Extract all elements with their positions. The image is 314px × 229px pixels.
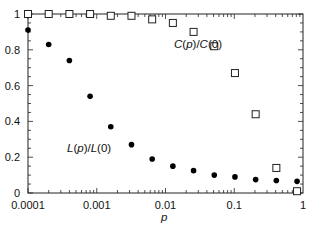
data-point-dot <box>25 27 31 33</box>
x-tick-label: 0.001 <box>83 199 111 211</box>
series-c-ratio-squares <box>25 11 301 195</box>
x-tick-label: 0.1 <box>227 199 242 211</box>
y-tick-label: 1 <box>14 8 20 20</box>
data-point-square <box>169 19 176 26</box>
data-point-square <box>128 12 135 19</box>
x-tick-label: 0.01 <box>155 199 176 211</box>
data-point-square <box>273 164 280 171</box>
y-tick-label: 0 <box>14 187 20 199</box>
y-tick-label: 0.6 <box>5 80 20 92</box>
data-point-square <box>190 28 197 35</box>
plot-frame <box>28 14 303 193</box>
data-point-square <box>252 111 259 118</box>
data-point-dot <box>129 142 135 148</box>
data-point-dot <box>232 174 238 180</box>
data-point-dot <box>149 156 155 162</box>
data-point-square <box>294 188 301 195</box>
data-point-dot <box>170 163 176 169</box>
plot-border <box>28 14 303 193</box>
axis-ticks <box>28 14 303 193</box>
y-tick-label: 0.2 <box>5 151 20 163</box>
data-point-square <box>107 12 114 19</box>
annotation-c-ratio: C(p)/C(0) <box>174 38 222 50</box>
data-point-dot <box>211 172 217 178</box>
y-tick-label: 0.8 <box>5 44 20 56</box>
annotation-l-ratio: L(p)/L(0) <box>67 142 111 154</box>
x-tick-label: 1 <box>300 199 306 211</box>
data-point-dot <box>87 94 93 100</box>
data-point-dot <box>294 179 300 185</box>
chart: 0.00010.0010.010.1100.20.40.60.81 C(p)/C… <box>0 0 314 229</box>
data-point-dot <box>253 177 259 183</box>
axis-tick-labels: 0.00010.0010.010.1100.20.40.60.81 <box>5 8 306 211</box>
x-tick-label: 0.0001 <box>11 199 45 211</box>
data-point-square <box>149 16 156 23</box>
data-point-square <box>231 70 238 77</box>
data-point-square <box>87 11 94 18</box>
data-point-dot <box>108 124 114 130</box>
data-point-dot <box>191 168 197 174</box>
y-tick-label: 0.4 <box>5 115 20 127</box>
data-point-dot <box>274 178 280 184</box>
data-point-dot <box>46 42 52 48</box>
x-axis-label: p <box>160 211 168 223</box>
data-point-dot <box>67 58 73 64</box>
data-point-square <box>66 11 73 18</box>
series-l-ratio-dots <box>25 27 300 184</box>
data-point-square <box>45 11 52 18</box>
data-point-square <box>25 11 32 18</box>
